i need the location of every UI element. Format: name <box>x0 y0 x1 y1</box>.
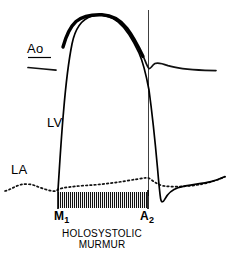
m1-label-subscript: 1 <box>64 215 69 225</box>
a2-label: A2 <box>140 210 154 225</box>
lv-pressure-curve <box>58 15 225 202</box>
ao-diastolic-baseline-left <box>28 68 56 71</box>
cardiac-pressure-tracing-figure: Ao LV LA M1 A2 HOLOSYSTOLIC MURMUR <box>0 0 232 263</box>
tracing-canvas <box>0 0 232 263</box>
ao-label: Ao <box>27 42 44 55</box>
murmur-caption-line-1: HOLOSYSTOLIC <box>36 228 168 239</box>
a2-label-letter: A <box>140 209 149 223</box>
a2-label-subscript: 2 <box>149 215 154 225</box>
lv-label: LV <box>47 116 63 129</box>
ao-dicrotic-notch-and-descent <box>144 58 216 71</box>
murmur-caption: HOLOSYSTOLIC MURMUR <box>36 228 168 250</box>
murmur-caption-line-2: MURMUR <box>36 239 168 250</box>
m1-label-letter: M <box>54 209 64 223</box>
m1-label: M1 <box>54 210 70 225</box>
murmur-hatch-fill <box>58 192 148 208</box>
la-label: LA <box>11 163 28 176</box>
holosystolic-murmur-bar <box>58 190 148 209</box>
